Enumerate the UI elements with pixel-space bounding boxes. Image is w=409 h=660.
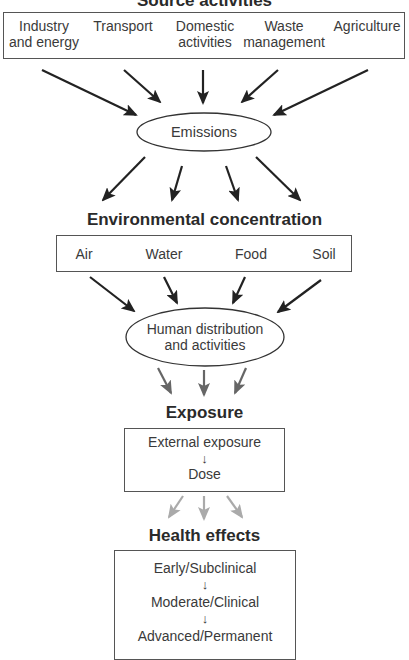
emissions-label: Emissions xyxy=(137,124,271,140)
source-item-domestic: Domestic activities xyxy=(167,18,243,50)
human-to-exposure-arrows xyxy=(158,368,246,395)
source-item-transport: Transport xyxy=(88,18,158,34)
human-line: Human distribution xyxy=(126,321,284,337)
environment-item-air: Air xyxy=(67,246,101,262)
source-item-line: Domestic xyxy=(167,18,243,34)
exposure-box: External exposure ↓ Dose xyxy=(124,428,285,492)
source-activities-box: Industry and energy Transport Domestic a… xyxy=(3,12,405,59)
emissions-to-environment-arrows xyxy=(103,157,300,200)
human-line: and activities xyxy=(126,337,284,353)
exposure-to-health-arrows xyxy=(169,496,242,519)
environment-item-water: Water xyxy=(141,246,187,262)
exposure-steps: External exposure ↓ Dose xyxy=(125,434,284,482)
source-item-line: activities xyxy=(167,34,243,50)
environmental-concentration-heading: Environmental concentration xyxy=(0,210,409,230)
source-activities-heading: Source activities xyxy=(0,0,409,11)
exposure-step-dose: Dose xyxy=(125,466,284,482)
down-arrow-icon: ↓ xyxy=(115,612,295,625)
health-step-advanced: Advanced/Permanent xyxy=(115,628,295,644)
source-item-line: management xyxy=(241,34,327,50)
environment-item-food: Food xyxy=(231,246,271,262)
source-to-emissions-arrows xyxy=(42,70,368,115)
down-arrow-icon: ↓ xyxy=(125,452,284,465)
environment-item-soil: Soil xyxy=(307,246,341,262)
source-item-line: Industry xyxy=(5,18,83,34)
source-item-agriculture: Agriculture xyxy=(330,18,404,34)
exposure-step-external: External exposure xyxy=(125,434,284,450)
health-step-early: Early/Subclinical xyxy=(115,560,295,576)
source-item-line: Transport xyxy=(88,18,158,34)
environment-box: Air Water Food Soil xyxy=(56,235,352,272)
source-item-industry: Industry and energy xyxy=(5,18,83,50)
health-effects-box: Early/Subclinical ↓ Moderate/Clinical ↓ … xyxy=(114,550,296,660)
human-distribution-label: Human distribution and activities xyxy=(126,321,284,353)
source-item-line: Agriculture xyxy=(330,18,404,34)
source-item-line: and energy xyxy=(5,34,83,50)
environment-to-human-arrows xyxy=(90,277,321,312)
health-steps: Early/Subclinical ↓ Moderate/Clinical ↓ … xyxy=(115,560,295,644)
down-arrow-icon: ↓ xyxy=(115,578,295,591)
health-effects-heading: Health effects xyxy=(0,526,409,546)
exposure-heading: Exposure xyxy=(0,403,409,423)
health-step-moderate: Moderate/Clinical xyxy=(115,594,295,610)
source-item-waste: Waste management xyxy=(241,18,327,50)
source-item-line: Waste xyxy=(241,18,327,34)
